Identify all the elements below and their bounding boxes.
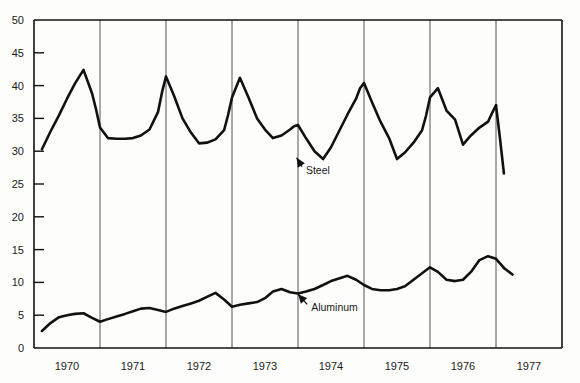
x-tick-label-1974: 1974: [319, 360, 343, 372]
x-tick-label-1976: 1976: [451, 360, 475, 372]
y-tick-label-45: 45: [12, 47, 24, 59]
x-tick-label-1972: 1972: [187, 360, 211, 372]
y-tick-label-40: 40: [12, 80, 24, 92]
series-line-steel: [42, 70, 496, 159]
y-tick-label-0: 0: [18, 342, 24, 354]
chart-gridlines: [100, 20, 496, 348]
y-tick-label-15: 15: [12, 244, 24, 256]
y-tick-label-50: 50: [12, 14, 24, 26]
chart-y-tick-labels: 05101520253035404550: [12, 14, 24, 354]
y-tick-label-20: 20: [12, 211, 24, 223]
x-tick-label-1977: 1977: [517, 360, 541, 372]
series-line-aluminum: [42, 256, 504, 331]
y-tick-label-35: 35: [12, 112, 24, 124]
series-annotation-label-aluminum: Aluminum: [311, 301, 358, 313]
y-tick-label-30: 30: [12, 145, 24, 157]
chart-page: 05101520253035404550 1970197119721973197…: [0, 0, 580, 383]
x-tick-label-1973: 1973: [253, 360, 277, 372]
y-tick-label-5: 5: [18, 309, 24, 321]
chart-annotations: SteelAluminum: [297, 158, 358, 314]
x-tick-label-1975: 1975: [385, 360, 409, 372]
y-tick-label-10: 10: [12, 276, 24, 288]
x-tick-label-1971: 1971: [121, 360, 145, 372]
chart-series-lines: [42, 70, 513, 331]
y-tick-label-25: 25: [12, 178, 24, 190]
series-line-steel-tail: [496, 105, 504, 173]
annotation-arrowhead-steel: [297, 158, 305, 168]
chart-y-ticks: [34, 53, 44, 315]
x-tick-label-1970: 1970: [55, 360, 79, 372]
series-annotation-label-steel: Steel: [306, 164, 330, 176]
series-line-aluminum-tail: [504, 268, 513, 275]
line-chart: 05101520253035404550 1970197119721973197…: [0, 0, 580, 383]
chart-x-tick-labels: 19701971197219731974197519761977: [55, 360, 541, 372]
